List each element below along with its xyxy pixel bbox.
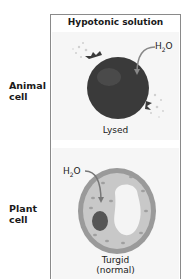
row-label-line1: Plant: [9, 203, 37, 214]
row-label-plant-cell: Plant cell: [9, 203, 37, 225]
state-label-lysed: Lysed: [51, 125, 180, 135]
water-label-plant: H2O: [63, 166, 81, 178]
cells-illustration: [51, 15, 180, 279]
animal-cell-lysed-icon: [85, 51, 152, 119]
row-label-line1: Animal: [9, 80, 46, 91]
diagram-frame: Hypotonic solution: [50, 14, 181, 279]
water-o: O: [166, 41, 173, 51]
water-label-animal: H2O: [155, 41, 173, 53]
water-h: H: [155, 41, 162, 51]
row-label-line2: cell: [9, 91, 46, 102]
row-label-line2: cell: [9, 214, 37, 225]
state-line2: (normal): [51, 265, 180, 275]
plant-cell-turgid-icon: [78, 168, 156, 254]
water-h: H: [63, 166, 70, 176]
state-label-turgid: Turgid (normal): [51, 255, 180, 275]
state-line1: Turgid: [51, 255, 180, 265]
water-o: O: [74, 166, 81, 176]
row-label-animal-cell: Animal cell: [9, 80, 46, 102]
